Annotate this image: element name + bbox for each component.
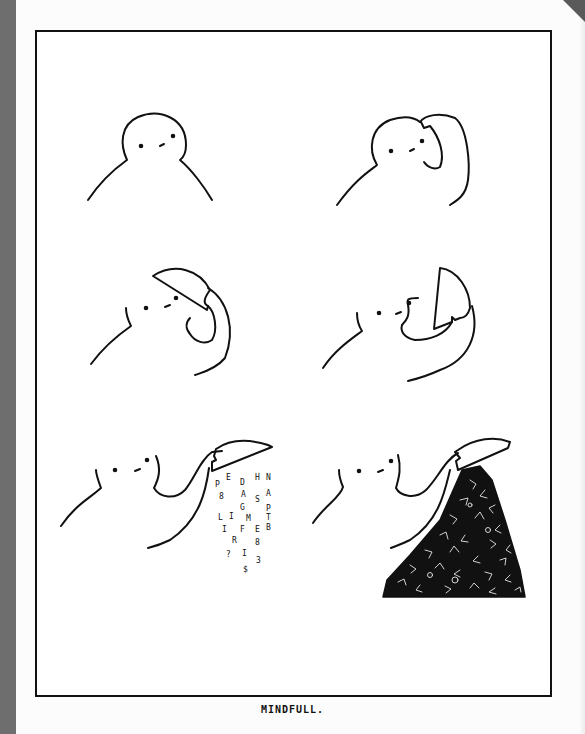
svg-text:H: H <box>255 473 260 482</box>
svg-text:P: P <box>266 504 271 513</box>
svg-text:M: M <box>246 514 251 523</box>
svg-text:E: E <box>255 525 260 534</box>
svg-text:B: B <box>266 523 271 532</box>
panel-6 <box>313 439 525 597</box>
panel-5: P E D H N 8 A S A G P L I M T I F E B R … <box>61 441 272 574</box>
falling-letter: P <box>215 480 220 489</box>
svg-text:S: S <box>255 495 260 504</box>
svg-text:3: 3 <box>256 556 261 565</box>
svg-text:E: E <box>226 473 231 482</box>
svg-text:?: ? <box>226 550 231 559</box>
svg-text:D: D <box>240 478 245 487</box>
comic-caption: MINDFULL. <box>0 704 585 715</box>
panel-2 <box>337 115 469 205</box>
svg-text:I: I <box>222 525 227 534</box>
svg-text:8: 8 <box>255 538 260 547</box>
svg-text:8: 8 <box>219 492 224 501</box>
svg-text:L: L <box>218 513 223 522</box>
svg-text:A: A <box>241 490 246 499</box>
svg-text:N: N <box>266 473 271 482</box>
svg-text:I: I <box>229 512 234 521</box>
svg-text:T: T <box>266 513 271 522</box>
panel-3 <box>91 269 230 375</box>
svg-text:R: R <box>232 536 237 545</box>
svg-text:I: I <box>242 549 247 558</box>
svg-text:G: G <box>240 503 245 512</box>
svg-text:F: F <box>240 525 245 534</box>
svg-text:$: $ <box>243 565 248 574</box>
comic-illustration: P E D H N 8 A S A G P L I M T I F E B R … <box>0 0 585 734</box>
panel-4 <box>323 268 474 381</box>
panel-1 <box>88 114 212 200</box>
svg-text:A: A <box>266 489 271 498</box>
